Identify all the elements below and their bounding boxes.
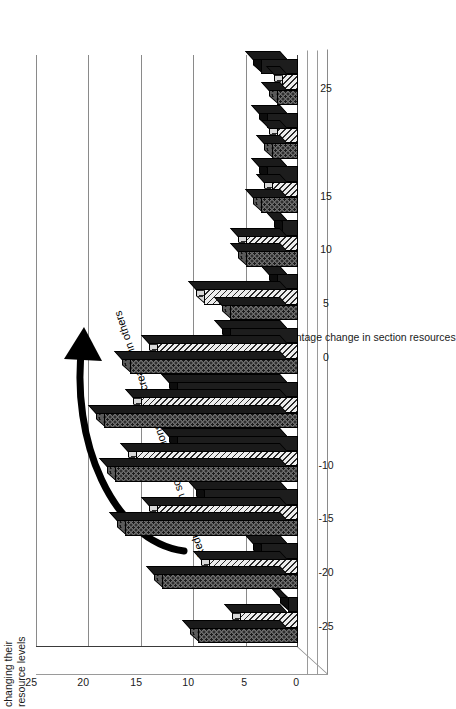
- y-tick-label: 0: [265, 676, 299, 688]
- bar-group: [36, 55, 298, 109]
- bar-side-face: [109, 512, 288, 521]
- floor-slab-3: [307, 50, 308, 675]
- y-tick-label: 25: [3, 676, 37, 688]
- bar-side-face: [146, 566, 288, 575]
- bar-side-face: [114, 351, 288, 360]
- bar-series-solid: [288, 597, 298, 612]
- bar-group: [36, 109, 298, 163]
- bar-series-dotted: [246, 251, 298, 266]
- x-tick-label: -10: [318, 459, 333, 471]
- bar-series-dotted: [198, 628, 298, 643]
- x-tick-label: 25: [320, 82, 332, 94]
- bar-side-face: [140, 335, 288, 344]
- bar-side-face: [245, 535, 288, 544]
- x-tick-label: 5: [323, 297, 329, 309]
- floor-slab-2: [317, 50, 318, 675]
- x-tick-label: -20: [318, 566, 333, 578]
- bar-group: [36, 593, 298, 647]
- y-tick-label: 20: [55, 676, 89, 688]
- x-tick-label: 10: [320, 243, 332, 255]
- bar-side-face: [99, 458, 288, 467]
- bar-side-face: [88, 405, 288, 414]
- bar-side-face: [125, 389, 288, 398]
- bar-series-dotted: [115, 466, 298, 481]
- bar-side-face: [230, 243, 288, 252]
- y-tick-label: 10: [160, 676, 194, 688]
- bar-side-face: [161, 374, 288, 383]
- bar-side-face: [188, 281, 288, 290]
- x-tick-label: 15: [320, 190, 332, 202]
- y-axis-title: changing their resource levels: [2, 636, 28, 707]
- y-tick-label: 5: [213, 676, 247, 688]
- bar-side-face: [250, 158, 288, 167]
- bar-side-face: [193, 551, 288, 560]
- bar-side-face: [182, 620, 288, 629]
- bar-series-dotted: [230, 305, 298, 320]
- x-tick-label: 0: [323, 351, 329, 363]
- x-tick-label: -15: [318, 512, 333, 524]
- bar-series-dotted: [104, 413, 298, 428]
- bar-side-face: [214, 297, 288, 306]
- bar-series-dotted: [277, 90, 298, 105]
- bar-series-dotted: [162, 574, 298, 589]
- bar-side-face: [230, 228, 288, 237]
- bar-series-dotted: [125, 520, 298, 535]
- bar-side-face: [214, 320, 288, 329]
- y-tick-label: 15: [108, 676, 142, 688]
- bar-series-dotted: [130, 359, 298, 374]
- y-axis-title-line1: changing their: [2, 636, 15, 707]
- bar-side-face: [245, 189, 288, 198]
- bar-side-face: [161, 428, 288, 437]
- bar-series-dotted: [272, 143, 298, 158]
- y-axis-title-line2: resource levels: [15, 636, 28, 707]
- bar-side-face: [224, 604, 288, 613]
- bar-side-face: [140, 497, 288, 506]
- bar-side-face: [119, 443, 288, 452]
- back-wall-edge: [36, 674, 328, 675]
- bar-series-dotted: [261, 197, 298, 212]
- bar-group: [36, 216, 298, 270]
- bar-side-face: [188, 481, 288, 490]
- x-tick-label: -25: [318, 620, 333, 632]
- bar-side-face: [245, 51, 288, 60]
- bar-group: [36, 163, 298, 217]
